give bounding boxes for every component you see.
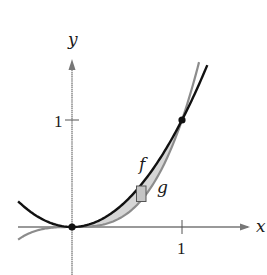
x-tick-label: 1: [177, 239, 186, 258]
y-axis: [65, 59, 79, 275]
graph-canvas: y x 1 1 f g: [0, 0, 267, 275]
curve-g: [18, 62, 199, 239]
x-axis-label: x: [256, 216, 266, 236]
x-axis-arrow-icon: [240, 224, 250, 231]
y-axis-label: y: [67, 29, 78, 49]
shaded-region: [72, 120, 182, 227]
curve-f: [18, 65, 207, 227]
representative-rectangle: [137, 186, 147, 202]
y-axis-arrow-icon: [69, 59, 76, 70]
curve-f-label: f: [137, 154, 148, 174]
intersection-point-origin: [68, 223, 75, 230]
area-between-curves-figure: y x 1 1 f g: [0, 0, 267, 275]
curve-g-label: g: [157, 177, 168, 197]
y-tick-label: 1: [54, 112, 63, 131]
intersection-point-1-1: [178, 116, 185, 123]
